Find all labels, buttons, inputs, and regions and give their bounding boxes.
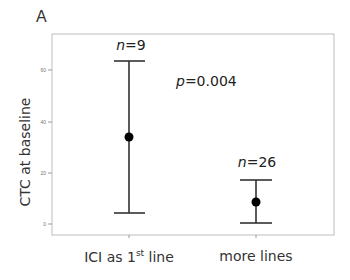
n-label-group-1: n=9: [116, 37, 146, 53]
y-axis-ticks: [48, 70, 52, 224]
mean-marker: [252, 198, 261, 207]
plot-area: [0, 0, 350, 280]
x-category-label-ici-first-line: ICI as 1st line: [84, 248, 174, 265]
errorbar-more-lines: [240, 180, 272, 223]
y-tick-label: 0: [43, 221, 46, 227]
y-tick-label: 20: [40, 170, 46, 176]
p-value-annotation: p=0.004: [176, 73, 237, 89]
errorbar-ici-first-line: [114, 61, 145, 213]
mean-marker: [125, 133, 134, 142]
x-category-label-more-lines: more lines: [219, 248, 292, 264]
n-label-group-2: n=26: [238, 154, 276, 170]
plot-frame: [52, 34, 334, 235]
y-tick-label: 40: [40, 119, 46, 125]
y-tick-label: 60: [40, 67, 46, 73]
y-axis-label: CTC at baseline: [17, 98, 33, 207]
